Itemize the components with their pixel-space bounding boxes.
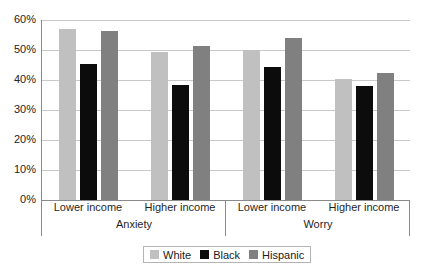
bar-worry-lower-black bbox=[264, 67, 281, 201]
bar-worry-higher-white bbox=[335, 79, 352, 201]
bar-anxiety-lower-hispanic bbox=[101, 31, 118, 201]
bar-worry-higher-black bbox=[356, 86, 373, 200]
bar-anxiety-higher-hispanic bbox=[193, 46, 210, 201]
legend-label: Hispanic bbox=[262, 249, 304, 261]
legend-swatch-icon bbox=[200, 250, 209, 259]
y-tick-label: 40% bbox=[0, 74, 36, 85]
legend-swatch-icon bbox=[249, 250, 258, 259]
category-label-anxiety-higher: Higher income bbox=[134, 201, 226, 214]
legend-item-hispanic: Hispanic bbox=[249, 249, 304, 261]
bar-anxiety-higher-white bbox=[151, 52, 168, 201]
category-label-band: Lower income Higher income Lower income … bbox=[41, 200, 410, 236]
panel-label-worry: Worry bbox=[226, 218, 410, 231]
legend-label: White bbox=[163, 249, 191, 261]
category-label-anxiety-lower: Lower income bbox=[42, 201, 134, 214]
category-label-worry-higher: Higher income bbox=[318, 201, 410, 214]
y-tick-label: 30% bbox=[0, 104, 36, 115]
y-tick-label: 50% bbox=[0, 44, 36, 55]
bar-worry-lower-hispanic bbox=[285, 38, 302, 200]
legend-label: Black bbox=[213, 249, 240, 261]
category-label-worry-lower: Lower income bbox=[226, 201, 318, 214]
bar-anxiety-lower-white bbox=[59, 29, 76, 200]
legend-item-black: Black bbox=[200, 249, 240, 261]
bar-worry-lower-white bbox=[243, 50, 260, 200]
bar-anxiety-higher-black bbox=[172, 85, 189, 201]
y-tick-label: 10% bbox=[0, 164, 36, 175]
bar-worry-higher-hispanic bbox=[377, 73, 394, 201]
y-tick-label: 0% bbox=[0, 194, 36, 205]
bar-anxiety-lower-black bbox=[80, 64, 97, 201]
bar-chart: 60% 50% 40% 30% 20% 10% 0% Lower income … bbox=[0, 0, 424, 276]
panel-label-anxiety: Anxiety bbox=[42, 218, 226, 231]
legend-swatch-icon bbox=[150, 250, 159, 259]
legend-item-white: White bbox=[150, 249, 191, 261]
y-tick-label: 20% bbox=[0, 134, 36, 145]
bars-layer bbox=[42, 20, 410, 200]
chart-legend: White Black Hispanic bbox=[143, 246, 311, 263]
y-tick-label: 60% bbox=[0, 14, 36, 25]
